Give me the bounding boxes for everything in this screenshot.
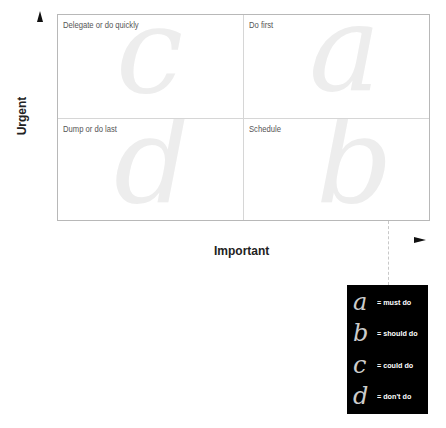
quadrant-label: Dump or do last <box>63 124 117 134</box>
legend-item-a: a = must do <box>353 287 415 317</box>
horizontal-divider <box>58 118 429 119</box>
legend-letter: b <box>353 321 373 345</box>
quadrant-label: Do first <box>249 20 273 30</box>
right-arrow-icon <box>414 237 426 243</box>
legend-item-b: b = should do <box>353 318 422 348</box>
quadrant-delegate: c Delegate or do quickly <box>58 15 243 118</box>
legend-text: = must do <box>377 298 411 307</box>
legend-text: = could do <box>377 361 413 370</box>
priority-matrix: c Delegate or do quickly a Do first d Du… <box>57 14 430 221</box>
legend-text: = don't do <box>377 392 411 401</box>
legend-item-d: d = don't do <box>353 381 415 411</box>
quadrant-label: Schedule <box>249 124 281 134</box>
quadrant-letter: a <box>309 15 381 109</box>
y-axis-label: Urgent <box>10 96 34 136</box>
legend-box: a = must do b = should do c = could do d… <box>347 285 428 414</box>
x-axis-label: Important <box>214 244 269 258</box>
quadrant-do-first: a Do first <box>244 15 429 118</box>
quadrant-dump: d Dump or do last <box>58 119 243 222</box>
legend-letter: d <box>353 384 373 408</box>
legend-letter: a <box>353 290 373 314</box>
legend-text: = should do <box>377 329 418 338</box>
up-arrow-icon <box>37 11 43 22</box>
legend-letter: c <box>353 353 373 377</box>
quadrant-label: Delegate or do quickly <box>63 20 139 30</box>
quadrant-letter: d <box>114 119 191 221</box>
legend-connector-line <box>388 221 389 285</box>
quadrant-letter: b <box>316 119 393 221</box>
quadrant-schedule: b Schedule <box>244 119 429 222</box>
legend-item-c: c = could do <box>353 350 417 380</box>
